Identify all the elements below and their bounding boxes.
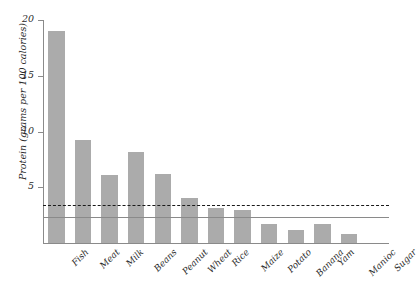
solid-requirement-line	[43, 217, 389, 218]
x-axis-labels: FishMeatMilkBeansPeanutWheatRiceMaizePot…	[43, 243, 389, 298]
bars-layer	[43, 20, 388, 243]
y-tick-label-15: 15	[0, 69, 34, 80]
bar	[128, 152, 145, 243]
y-tick-label-5: 5	[0, 180, 34, 191]
bar-slot	[155, 20, 172, 243]
bar-slot	[48, 20, 65, 243]
bar	[234, 210, 251, 243]
y-tick-label-20: 20	[0, 13, 34, 24]
dashed-requirement-line	[43, 205, 389, 206]
bar	[101, 175, 118, 243]
plot-area	[43, 20, 388, 243]
bar	[288, 230, 305, 243]
x-tick-label-fish: Fish	[70, 247, 91, 268]
x-tick-label-maize: Maize	[259, 247, 286, 274]
y-tick-label-10: 10	[0, 125, 34, 136]
bar-slot	[314, 20, 331, 243]
bar	[341, 234, 358, 243]
bar-slot	[181, 20, 198, 243]
bar-slot	[261, 20, 278, 243]
bar	[75, 140, 92, 243]
bar	[48, 31, 65, 243]
bar	[155, 174, 172, 243]
bar	[208, 208, 225, 243]
x-tick-label-milk: Milk	[124, 247, 146, 269]
x-tick-label-meat: Meat	[98, 247, 122, 271]
x-tick-label-manioc: Manioc	[367, 247, 398, 278]
x-tick-label-rice: Rice	[230, 247, 251, 268]
bar-slot	[75, 20, 92, 243]
x-tick-label-potato: Potato	[286, 247, 314, 275]
x-tick-label-beans: Beans	[152, 247, 179, 274]
bar	[261, 224, 278, 243]
bar	[314, 224, 331, 243]
bar-slot	[234, 20, 251, 243]
bar-slot	[208, 20, 225, 243]
bar-slot	[288, 20, 305, 243]
bar-slot	[101, 20, 118, 243]
bar-slot	[367, 20, 384, 243]
y-axis-title: Protein (grams per 100 calories)	[17, 2, 28, 202]
x-tick-label-peanut: Peanut	[180, 247, 209, 276]
bar-slot	[341, 20, 358, 243]
bar-slot	[128, 20, 145, 243]
